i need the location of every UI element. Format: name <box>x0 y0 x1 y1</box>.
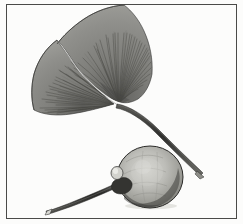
illustration-plate: Ginkgo biloba Botanical illustration pla… <box>0 0 243 224</box>
botanical-illustration-canvas <box>0 0 243 224</box>
ginkgo-seed <box>117 146 183 209</box>
bract-knob-highlight <box>113 168 118 174</box>
